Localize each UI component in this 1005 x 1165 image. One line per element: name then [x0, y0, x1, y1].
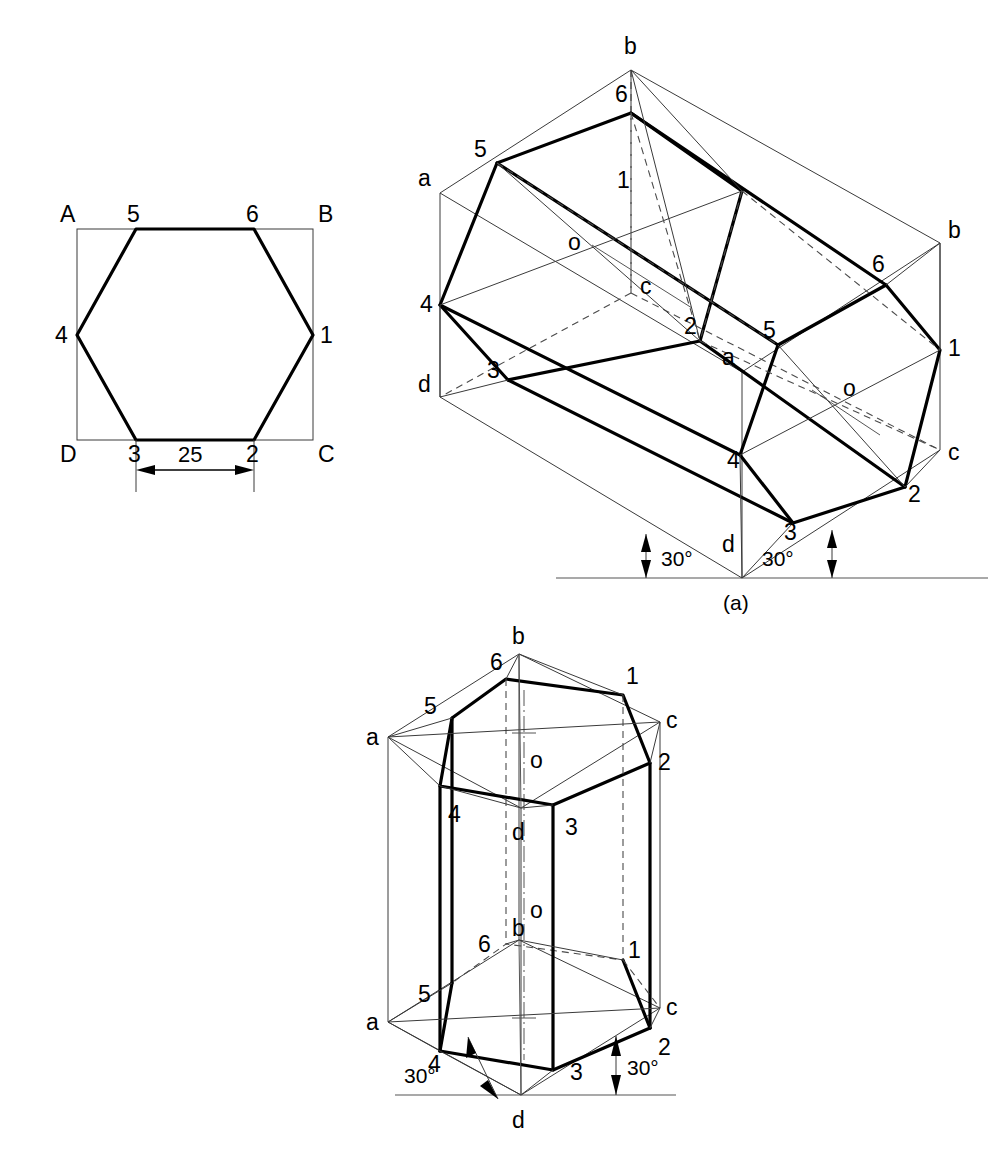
- label-dimension-25: 25: [178, 442, 202, 467]
- figure-a-horizontal-prism: 30° 30° a d b b c a c d 5 6 1 2 3 4 6: [418, 33, 988, 614]
- label-b-top-3: 3: [565, 814, 578, 840]
- construction-bright-to-6near: [886, 243, 940, 285]
- figure-a-caption: (a): [723, 591, 749, 614]
- bottom-hidden-1-to-c-b: [623, 960, 660, 1008]
- bottom-hex-edge-2-1-b: [623, 960, 650, 1028]
- label-a-near-1: 1: [948, 335, 961, 361]
- far-face-diagonal-5-2: [497, 163, 700, 341]
- label-a-box-c-right: c: [948, 439, 960, 465]
- label-b-bot-c: c: [666, 994, 678, 1020]
- box-a-hidden-floor-left: [440, 293, 631, 397]
- label-b-bot-6: 6: [478, 931, 491, 957]
- near-face-diagonal-5-2: [778, 345, 905, 487]
- label-hex-4: 4: [55, 322, 68, 348]
- label-hex-3: 3: [128, 441, 141, 467]
- label-a-near-6: 6: [872, 251, 885, 277]
- box-a-edge-neartop-to-c: [742, 243, 940, 372]
- label-b-bot-3: 3: [570, 1059, 583, 1085]
- angle-left-arrow-down-icon-b: [480, 1080, 498, 1099]
- top-hexagon-face-b: [440, 679, 650, 805]
- top-construction-a-to-4-b: [388, 737, 440, 786]
- bottom-construction-d-to-3-b: [521, 1070, 553, 1095]
- label-square-B: B: [318, 201, 333, 227]
- enclosing-square: [77, 229, 313, 440]
- figure-hexagon-in-square: A B C D 5 6 1 4 3 2 25: [55, 201, 335, 492]
- label-b-centre-o-bottom: o: [530, 897, 543, 923]
- label-a-near-3: 3: [784, 519, 797, 545]
- label-b-bot-d: d: [512, 1107, 525, 1133]
- label-b-top-a: a: [366, 724, 379, 750]
- label-a-near-5: 5: [763, 317, 776, 343]
- label-b-centre-o-top: o: [530, 747, 543, 773]
- hexagon-outline: [77, 229, 313, 440]
- angle-right-arrow-up-icon-b: [611, 1036, 621, 1056]
- drawing-sheet: A B C D 5 6 1 4 3 2 25: [0, 0, 1005, 1165]
- label-b-bot-2: 2: [658, 1034, 671, 1060]
- label-a-far-6: 6: [615, 81, 628, 107]
- label-a-box-d-left: d: [418, 371, 431, 397]
- bottom-hex-edge-5-4-b: [440, 983, 452, 1051]
- angle-left-arrow-up-icon-b: [466, 1037, 476, 1058]
- angle-right-arrow-up-icon-a: [827, 530, 837, 548]
- label-b-bot-1: 1: [628, 937, 641, 963]
- technical-drawing-canvas: A B C D 5 6 1 4 3 2 25: [0, 0, 1005, 1165]
- label-b-top-4: 4: [448, 801, 461, 827]
- label-b-bot-a: a: [366, 1009, 379, 1035]
- label-hex-1: 1: [320, 322, 333, 348]
- prism-edge-6: [631, 113, 886, 285]
- label-b-top-6: 6: [490, 649, 503, 675]
- box-a-edge-a-to-b: [440, 70, 631, 193]
- angle-left-arrow-up-icon-a: [641, 534, 651, 552]
- label-a-box-b-right: b: [948, 217, 961, 243]
- bottom-hexagon-hidden-b: [440, 944, 650, 1051]
- box-a-edge-neartop-to-a: [440, 193, 742, 372]
- label-hex-2: 2: [246, 441, 259, 467]
- label-square-C: C: [318, 441, 335, 467]
- bottom-construction-b-to-1-b: [519, 940, 623, 960]
- label-a-centre-o-far: o: [568, 229, 581, 255]
- prism-edge-3: [508, 380, 793, 523]
- label-b-bot-b: b: [512, 915, 525, 941]
- label-b-bot-5: 5: [418, 981, 431, 1007]
- label-b-top-c: c: [666, 707, 678, 733]
- label-square-D: D: [60, 441, 77, 467]
- label-b-top-2: 2: [658, 749, 671, 775]
- label-hex-6: 6: [246, 201, 259, 227]
- label-b-top-d: d: [512, 819, 525, 845]
- bottom-construction-a-to-4-b: [388, 1022, 440, 1051]
- label-b-top-b: b: [512, 623, 525, 649]
- angle-right-arrow-down-icon-b: [611, 1075, 621, 1095]
- label-a-far-3: 3: [487, 357, 500, 383]
- label-square-A: A: [60, 201, 76, 227]
- angle-right-label-b: 30°: [627, 1056, 659, 1079]
- construction-b-to-1far: [631, 70, 742, 191]
- label-a-near-2: 2: [908, 481, 921, 507]
- label-a-box-b-top: b: [624, 33, 637, 59]
- label-a-box-d-near: d: [722, 531, 735, 557]
- label-b-bot-4: 4: [428, 1051, 441, 1077]
- label-a-box-a-mid: a: [722, 344, 735, 370]
- label-a-box-c-mid: c: [640, 273, 652, 299]
- label-a-near-4: 4: [727, 447, 740, 473]
- angle-right-arrow-down-icon-a: [827, 560, 837, 578]
- label-b-top-5: 5: [424, 693, 437, 719]
- label-a-far-4: 4: [420, 291, 433, 317]
- label-a-far-5: 5: [474, 136, 487, 162]
- label-a-centre-o-near: o: [843, 375, 856, 401]
- figure-b-vertical-prism: 30° 30° a b c d a b c d 5 6 1 2 3 4 5: [366, 623, 678, 1133]
- label-a-box-a-left: a: [418, 165, 431, 191]
- angle-right-label-a: 30°: [762, 547, 794, 570]
- label-hex-5: 5: [127, 201, 140, 227]
- label-a-far-2: 2: [684, 313, 697, 339]
- box-a-edge-d-to-origin: [440, 397, 742, 578]
- angle-left-label-a: 30°: [661, 547, 693, 570]
- box-a-hidden-floor-right: [631, 293, 940, 450]
- far-face-diagonal-4-1: [440, 191, 742, 305]
- angle-left-arrow-down-icon-a: [641, 560, 651, 578]
- label-a-far-1: 1: [617, 167, 630, 193]
- label-b-top-1: 1: [626, 663, 639, 689]
- construction-b-long: [631, 70, 700, 341]
